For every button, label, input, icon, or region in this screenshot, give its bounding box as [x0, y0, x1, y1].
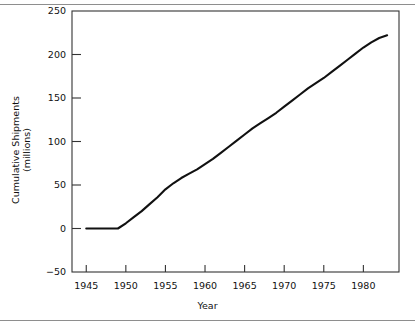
- x-axis-ticks: [86, 265, 363, 272]
- x-tick-label: 1950: [106, 281, 146, 291]
- x-tick-label: 1965: [225, 281, 265, 291]
- x-tick-label: 1955: [145, 281, 185, 291]
- x-tick-label: 1970: [264, 281, 304, 291]
- y-tick-label: −50: [28, 267, 66, 277]
- y-tick-label: 250: [28, 6, 66, 16]
- x-axis-title: Year: [0, 300, 415, 311]
- line-chart-figure: −50050100150200250 194519501955196019651…: [0, 0, 415, 325]
- y-tick-label: 200: [28, 50, 66, 60]
- y-tick-label: 0: [28, 224, 66, 234]
- y-axis-ticks: [72, 55, 81, 229]
- document-page: −50050100150200250 194519501955196019651…: [0, 0, 415, 325]
- y-axis-title-line1: Cumulative Shipments: [10, 96, 21, 204]
- x-tick-label: 1960: [185, 281, 225, 291]
- x-tick-label: 1945: [66, 281, 106, 291]
- y-axis-title-line2: (millions): [21, 96, 32, 204]
- x-tick-label: 1980: [343, 281, 383, 291]
- y-axis-title: Cumulative Shipments (millions): [8, 80, 34, 220]
- x-tick-label: 1975: [304, 281, 344, 291]
- data-series-line: [86, 35, 387, 228]
